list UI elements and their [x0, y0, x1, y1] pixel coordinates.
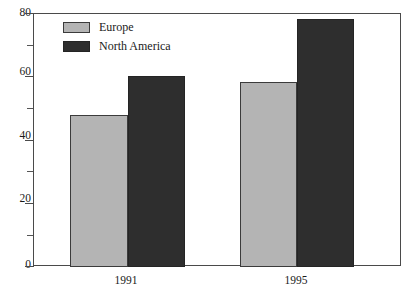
plot-area: Europe North America — [33, 13, 401, 266]
bar-1991-europe[interactable] — [70, 115, 128, 267]
y-axis-tick-0 — [25, 266, 34, 267]
x-axis-label-1995: 1995 — [285, 274, 308, 286]
bar-1995-north-america[interactable] — [297, 19, 354, 267]
legend-swatch-europe — [63, 22, 90, 33]
bar-1995-europe[interactable] — [240, 82, 297, 267]
legend-item-europe[interactable]: Europe — [63, 19, 171, 35]
legend: Europe North America — [63, 19, 171, 57]
legend-swatch-north-america — [63, 41, 90, 52]
legend-item-north-america[interactable]: North America — [63, 38, 171, 54]
y-axis-label-0: 0 — [25, 259, 31, 271]
bar-chart: 80 60 40 20 0 Europe North Amer — [0, 0, 412, 300]
legend-label-north-america: North America — [99, 40, 171, 52]
bar-1991-north-america[interactable] — [128, 76, 185, 267]
x-axis-label-1991: 1991 — [115, 274, 138, 286]
legend-label-europe: Europe — [99, 21, 134, 33]
